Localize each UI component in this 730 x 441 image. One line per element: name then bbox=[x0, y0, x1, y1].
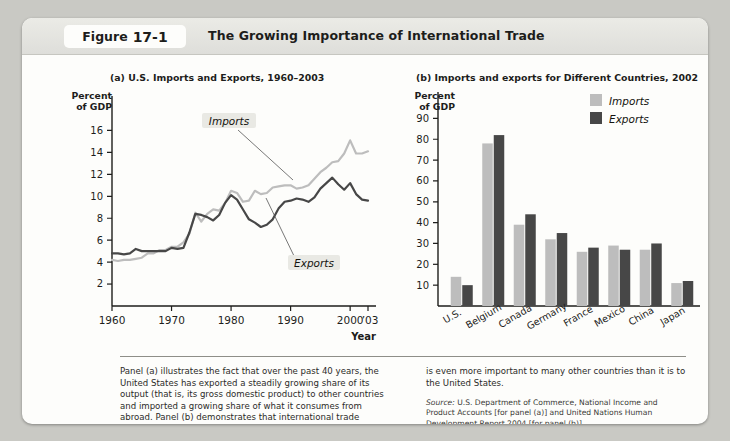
panel-b-y-tick-label: 90 bbox=[416, 113, 429, 124]
panel-a-x-axis-title: Year bbox=[350, 331, 376, 342]
panel-a-x-tick-label: 1960 bbox=[99, 314, 126, 326]
caption-right-column: is even more important to many other cou… bbox=[426, 366, 688, 424]
panel-a-y-tick-label: 6 bbox=[97, 235, 103, 246]
panel-b-bar-exports-japan bbox=[683, 281, 694, 306]
panel-b-y-tick-label: 60 bbox=[416, 175, 429, 186]
caption-right-text: is even more important to many other cou… bbox=[426, 366, 688, 389]
panel-a-y-tick-label: 4 bbox=[97, 257, 103, 268]
panel-b-bar-exports-france bbox=[588, 248, 599, 306]
figure-card: Figure 17-1 The Growing Importance of In… bbox=[22, 18, 708, 424]
panel-b-bar-chart: 102030405060708090U.S.BelgiumCanadaGerma… bbox=[394, 84, 708, 344]
panel-a-y-tick-label: 8 bbox=[97, 213, 103, 224]
panel-b-bar-imports-us bbox=[451, 277, 462, 306]
panel-a-x-tick-label: 1970 bbox=[158, 314, 185, 326]
panel-b-bar-exports-china bbox=[651, 243, 662, 306]
panel-a-line-chart: 24681012141619601970198019902000’03Impor… bbox=[50, 84, 380, 344]
panel-b-bar-imports-japan bbox=[671, 283, 682, 306]
panel-b-bar-imports-mexico bbox=[608, 246, 619, 306]
panel-a-title: (a) U.S. Imports and Exports, 1960–2003 bbox=[110, 72, 324, 83]
panel-b-y-tick-label: 10 bbox=[416, 280, 429, 291]
panel-a-imports-leader bbox=[238, 130, 293, 180]
panel-b-bar-exports-us bbox=[462, 285, 473, 306]
panel-b-x-tick-label: U.S. bbox=[441, 306, 463, 325]
panel-a-y-tick-label: 12 bbox=[90, 169, 103, 180]
panel-b-y-tick-label: 20 bbox=[416, 259, 429, 270]
panel-a-y-tick-label: 10 bbox=[90, 191, 103, 202]
panel-b-legend-label-exports: Exports bbox=[609, 113, 649, 125]
panel-b-y-tick-label: 30 bbox=[416, 238, 429, 249]
panel-b-x-tick-label: Mexico bbox=[592, 303, 627, 329]
panel-b-y-tick-label: 50 bbox=[416, 196, 429, 207]
panel-b-legend-label-imports: Imports bbox=[609, 95, 650, 107]
panel-b-bar-imports-china bbox=[640, 250, 651, 306]
figure-number-badge: Figure 17-1 bbox=[64, 25, 186, 48]
panel-b-bar-exports-mexico bbox=[620, 250, 631, 306]
panel-a-y-tick-label: 16 bbox=[90, 125, 103, 136]
figure-badge-word: Figure bbox=[82, 29, 127, 44]
panel-b-y-tick-label: 70 bbox=[416, 155, 429, 166]
panel-b-bar-imports-france bbox=[577, 252, 588, 306]
panel-b-bar-exports-germany bbox=[557, 233, 568, 306]
panel-b-bar-imports-germany bbox=[545, 239, 556, 306]
figure-title: The Growing Importance of International … bbox=[208, 28, 545, 43]
source-note: Source: U.S. Department of Commerce, Nat… bbox=[426, 398, 688, 424]
panel-a-y-tick-label: 2 bbox=[97, 278, 103, 289]
panel-b-y-tick-label: 80 bbox=[416, 134, 429, 145]
caption-left-column: Panel (a) illustrates the fact that over… bbox=[120, 366, 396, 424]
panel-b-x-tick-label: Japan bbox=[657, 305, 687, 328]
panel-b-bar-exports-canada bbox=[525, 214, 536, 306]
panel-a-x-tick-label: 2000 bbox=[337, 314, 364, 326]
figure-badge-number: 17-1 bbox=[133, 29, 168, 45]
panel-b-x-tick-label: China bbox=[626, 304, 655, 327]
caption-divider bbox=[120, 356, 686, 357]
panel-a-x-tick-label: 1990 bbox=[277, 314, 304, 326]
panel-a-imports-label: Imports bbox=[209, 115, 250, 127]
panel-a-y-tick-label: 14 bbox=[90, 147, 103, 158]
panel-b-bar-imports-belgium bbox=[482, 143, 493, 306]
panel-a-series-exports bbox=[112, 178, 368, 255]
source-text: U.S. Department of Commerce, National In… bbox=[426, 398, 658, 424]
panel-b-y-tick-label: 40 bbox=[416, 217, 429, 228]
panel-b-bar-exports-belgium bbox=[494, 135, 505, 306]
panel-b-legend-swatch-imports bbox=[590, 94, 602, 106]
panel-b-legend-swatch-exports bbox=[590, 112, 602, 124]
figure-header: Figure 17-1 The Growing Importance of In… bbox=[22, 18, 708, 55]
panel-a-exports-label: Exports bbox=[294, 257, 334, 269]
panel-b-title: (b) Imports and exports for Different Co… bbox=[416, 72, 698, 83]
panel-a-x-tick-label: 1980 bbox=[218, 314, 245, 326]
panel-b-bar-imports-canada bbox=[514, 225, 525, 306]
panel-a-x-tick-label: ’03 bbox=[362, 314, 379, 326]
source-label: Source: bbox=[426, 398, 455, 407]
panel-a-series-imports bbox=[112, 140, 368, 261]
